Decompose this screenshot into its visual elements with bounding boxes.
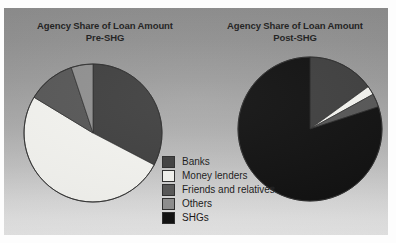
legend-item-money-lenders: Money lenders (162, 169, 332, 183)
legend-swatch-friends-and-relatives (162, 184, 175, 196)
legend-swatch-others (162, 198, 175, 210)
legend-item-friends-and-relatives: Friends and relatives (162, 183, 332, 197)
chart-title-right-line2: Post-SHG (200, 32, 388, 44)
pie-chart-pre-shg (22, 58, 172, 208)
legend-swatch-money-lenders (162, 170, 175, 182)
chart-title-right-line1: Agency Share of Loan Amount (200, 20, 388, 32)
chart-title-left-line1: Agency Share of Loan Amount (10, 20, 200, 32)
legend-label-shgs: SHGs (182, 212, 209, 224)
chart-title-left: Agency Share of Loan Amount Pre-SHG (10, 20, 200, 44)
pie-slices-pre-shg (24, 64, 162, 202)
legend-swatch-banks (162, 156, 175, 168)
legend-label-banks: Banks (182, 156, 210, 168)
legend-item-shgs: SHGs (162, 211, 332, 225)
legend-label-others: Others (182, 198, 212, 210)
legend-swatch-shgs (162, 212, 175, 224)
legend-item-banks: Banks (162, 155, 332, 169)
chart-panel: Agency Share of Loan Amount Pre-SHG Agen… (4, 8, 388, 235)
legend-item-others: Others (162, 197, 332, 211)
chart-title-left-line2: Pre-SHG (10, 32, 200, 44)
legend-label-friends-and-relatives: Friends and relatives (182, 184, 275, 196)
figure-canvas: Agency Share of Loan Amount Pre-SHG Agen… (0, 0, 396, 243)
chart-legend: Banks Money lenders Friends and relative… (162, 155, 332, 225)
legend-label-money-lenders: Money lenders (182, 170, 248, 182)
chart-title-right: Agency Share of Loan Amount Post-SHG (200, 20, 388, 44)
